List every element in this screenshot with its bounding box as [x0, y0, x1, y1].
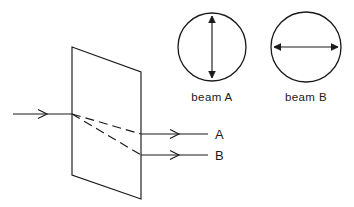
exit-ray-b: B	[141, 148, 224, 163]
internal-rays	[72, 114, 141, 155]
birefringence-diagram: A B beam A beam B	[0, 0, 354, 207]
internal-ray-a	[72, 114, 141, 134]
exit-ray-a-label: A	[215, 127, 224, 142]
internal-ray-b	[72, 114, 141, 155]
exit-ray-b-label: B	[215, 148, 224, 163]
birefringent-plate	[72, 47, 141, 199]
exit-ray-a: A	[141, 127, 224, 142]
beam-a-cross-section: beam A	[178, 13, 246, 103]
beam-b-caption: beam B	[285, 91, 327, 103]
beam-a-caption: beam A	[191, 91, 232, 103]
beam-b-cross-section: beam B	[271, 12, 341, 103]
incident-ray	[13, 109, 72, 118]
